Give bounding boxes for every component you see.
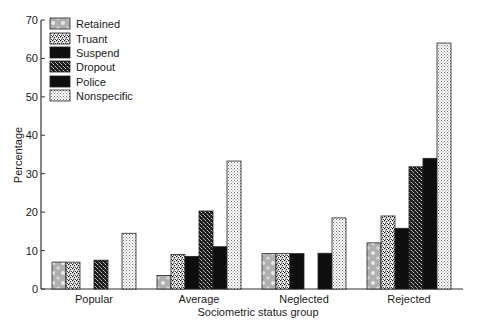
bar-police [423, 158, 437, 289]
y-axis: 010203040506070 [26, 14, 45, 295]
y-tick-label: 10 [26, 245, 38, 257]
bar-retained [262, 254, 276, 289]
bar-retained [367, 243, 381, 289]
bar-nonspecific [332, 218, 346, 289]
legend-label: Nonspecific [76, 90, 133, 102]
legend-label: Police [76, 76, 106, 88]
legend: RetainedTruantSuspendDropoutPoliceNonspe… [50, 18, 133, 102]
y-tick-label: 40 [26, 129, 38, 141]
y-axis-title: Percentage [12, 127, 24, 183]
y-tick-label: 60 [26, 52, 38, 64]
bar-group-rejected [367, 43, 451, 289]
legend-swatch [50, 33, 70, 44]
x-category-label: Popular [75, 293, 113, 305]
bar-dropout [199, 211, 213, 289]
y-tick-label: 20 [26, 206, 38, 218]
bar-nonspecific [227, 161, 241, 289]
bar-nonspecific [437, 43, 451, 289]
bar-nonspecific [122, 233, 136, 289]
bar-truant [66, 262, 80, 289]
legend-item-retained: Retained [50, 18, 120, 30]
bar-police [318, 253, 332, 289]
bar-chart: 010203040506070 PopularAverageNeglectedR… [0, 0, 480, 333]
bars [52, 43, 451, 289]
y-tick-label: 0 [32, 283, 38, 295]
bar-suspend [290, 254, 304, 289]
bar-retained [157, 276, 171, 289]
bar-truant [276, 254, 290, 289]
legend-item-dropout: Dropout [50, 61, 115, 73]
legend-swatch [50, 90, 70, 101]
legend-item-suspend: Suspend [50, 47, 119, 59]
bar-retained [52, 262, 66, 289]
bar-suspend [395, 228, 409, 289]
x-category-label: Average [179, 293, 220, 305]
bar-suspend [185, 256, 199, 289]
bar-truant [381, 216, 395, 289]
legend-item-police: Police [50, 76, 106, 88]
legend-label: Truant [76, 33, 107, 45]
legend-label: Retained [76, 18, 120, 30]
x-category-label: Neglected [279, 293, 329, 305]
legend-swatch [50, 61, 70, 72]
bar-group-average [157, 161, 241, 289]
y-tick-label: 50 [26, 91, 38, 103]
bar-police [213, 247, 227, 289]
legend-swatch [50, 18, 70, 29]
x-axis: PopularAverageNeglectedRejected [41, 289, 463, 305]
bar-truant [171, 254, 185, 289]
bar-group-popular [52, 233, 136, 289]
legend-item-truant: Truant [50, 33, 107, 45]
bar-group-neglected [262, 218, 346, 289]
legend-label: Dropout [76, 61, 115, 73]
bar-dropout [94, 260, 108, 289]
legend-swatch [50, 47, 70, 58]
y-tick-label: 70 [26, 14, 38, 26]
x-category-label: Rejected [387, 293, 430, 305]
y-tick-label: 30 [26, 168, 38, 180]
legend-swatch [50, 76, 70, 87]
bar-dropout [409, 167, 423, 289]
legend-label: Suspend [76, 47, 119, 59]
x-axis-title: Sociometric status group [197, 306, 318, 318]
legend-item-nonspecific: Nonspecific [50, 90, 133, 102]
